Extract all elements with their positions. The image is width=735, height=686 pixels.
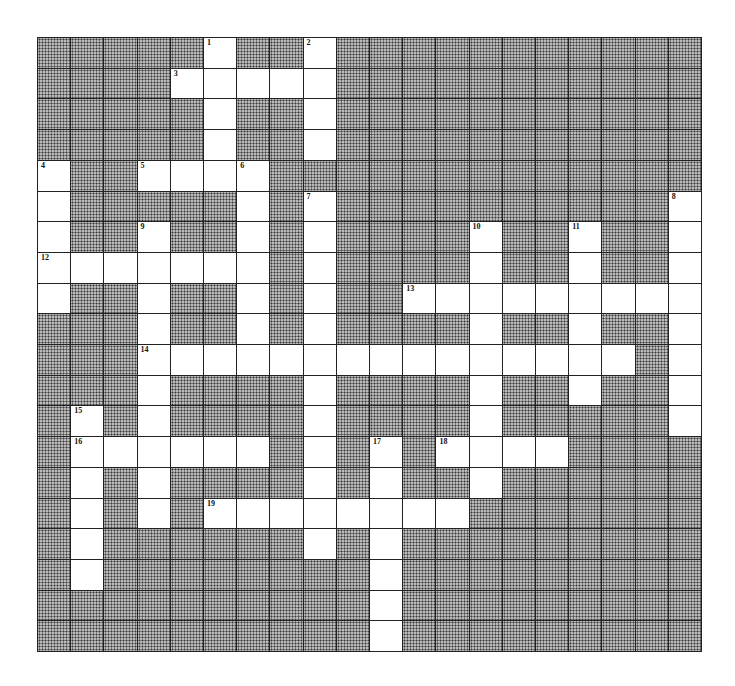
answer-cell[interactable] <box>204 253 236 283</box>
answer-cell[interactable] <box>171 345 203 375</box>
answer-cell[interactable] <box>237 345 269 375</box>
answer-cell[interactable] <box>304 284 336 314</box>
answer-cell[interactable]: 8 <box>669 192 701 222</box>
answer-cell[interactable] <box>304 345 336 375</box>
answer-cell[interactable] <box>436 499 468 529</box>
answer-cell[interactable] <box>237 192 269 222</box>
answer-cell[interactable] <box>237 437 269 467</box>
answer-cell[interactable] <box>304 499 336 529</box>
answer-cell[interactable] <box>304 99 336 129</box>
answer-cell[interactable] <box>38 222 70 252</box>
answer-cell[interactable] <box>270 69 302 99</box>
answer-cell[interactable] <box>71 468 103 498</box>
answer-cell[interactable] <box>237 314 269 344</box>
answer-cell[interactable]: 6 <box>237 161 269 191</box>
answer-cell[interactable] <box>536 284 568 314</box>
answer-cell[interactable] <box>237 499 269 529</box>
answer-cell[interactable] <box>503 345 535 375</box>
answer-cell[interactable] <box>470 284 502 314</box>
answer-cell[interactable] <box>237 284 269 314</box>
answer-cell[interactable] <box>204 345 236 375</box>
answer-cell[interactable] <box>536 437 568 467</box>
answer-cell[interactable] <box>138 499 170 529</box>
answer-cell[interactable] <box>270 499 302 529</box>
answer-cell[interactable] <box>669 376 701 406</box>
answer-cell[interactable] <box>171 253 203 283</box>
answer-cell[interactable]: 4 <box>38 161 70 191</box>
answer-cell[interactable] <box>669 345 701 375</box>
answer-cell[interactable] <box>237 69 269 99</box>
answer-cell[interactable] <box>337 499 369 529</box>
answer-cell[interactable] <box>270 345 302 375</box>
answer-cell[interactable] <box>636 284 668 314</box>
answer-cell[interactable]: 2 <box>304 38 336 68</box>
answer-cell[interactable] <box>337 345 369 375</box>
answer-cell[interactable] <box>304 130 336 160</box>
answer-cell[interactable]: 16 <box>71 437 103 467</box>
answer-cell[interactable] <box>138 253 170 283</box>
answer-cell[interactable]: 19 <box>204 499 236 529</box>
answer-cell[interactable] <box>569 253 601 283</box>
answer-cell[interactable] <box>71 560 103 590</box>
answer-cell[interactable]: 15 <box>71 406 103 436</box>
answer-cell[interactable] <box>470 345 502 375</box>
answer-cell[interactable]: 3 <box>171 69 203 99</box>
answer-cell[interactable] <box>204 161 236 191</box>
answer-cell[interactable]: 11 <box>569 222 601 252</box>
answer-cell[interactable]: 1 <box>204 38 236 68</box>
answer-cell[interactable] <box>536 345 568 375</box>
answer-cell[interactable] <box>370 529 402 559</box>
answer-cell[interactable]: 18 <box>436 437 468 467</box>
answer-cell[interactable] <box>204 69 236 99</box>
answer-cell[interactable]: 14 <box>138 345 170 375</box>
answer-cell[interactable] <box>470 406 502 436</box>
answer-cell[interactable] <box>171 161 203 191</box>
answer-cell[interactable]: 17 <box>370 437 402 467</box>
answer-cell[interactable] <box>304 529 336 559</box>
answer-cell[interactable] <box>436 284 468 314</box>
answer-cell[interactable]: 9 <box>138 222 170 252</box>
answer-cell[interactable] <box>569 284 601 314</box>
answer-cell[interactable] <box>304 376 336 406</box>
answer-cell[interactable] <box>503 437 535 467</box>
answer-cell[interactable] <box>71 253 103 283</box>
answer-cell[interactable] <box>470 314 502 344</box>
answer-cell[interactable] <box>669 253 701 283</box>
answer-cell[interactable] <box>38 192 70 222</box>
answer-cell[interactable] <box>370 345 402 375</box>
answer-cell[interactable] <box>304 406 336 436</box>
answer-cell[interactable] <box>403 499 435 529</box>
answer-cell[interactable] <box>602 284 634 314</box>
answer-cell[interactable] <box>503 284 535 314</box>
answer-cell[interactable] <box>204 437 236 467</box>
answer-cell[interactable] <box>669 284 701 314</box>
answer-cell[interactable]: 12 <box>38 253 70 283</box>
answer-cell[interactable] <box>204 99 236 129</box>
answer-cell[interactable] <box>403 345 435 375</box>
answer-cell[interactable] <box>569 314 601 344</box>
answer-cell[interactable] <box>370 499 402 529</box>
answer-cell[interactable] <box>370 591 402 621</box>
answer-cell[interactable] <box>71 529 103 559</box>
answer-cell[interactable] <box>237 222 269 252</box>
answer-cell[interactable] <box>138 376 170 406</box>
answer-cell[interactable] <box>304 253 336 283</box>
answer-cell[interactable] <box>669 314 701 344</box>
answer-cell[interactable] <box>470 468 502 498</box>
answer-cell[interactable] <box>138 468 170 498</box>
answer-cell[interactable] <box>569 345 601 375</box>
answer-cell[interactable] <box>138 314 170 344</box>
answer-cell[interactable] <box>138 406 170 436</box>
answer-cell[interactable] <box>104 253 136 283</box>
answer-cell[interactable] <box>370 621 402 651</box>
answer-cell[interactable] <box>436 345 468 375</box>
answer-cell[interactable] <box>304 69 336 99</box>
answer-cell[interactable] <box>470 437 502 467</box>
answer-cell[interactable] <box>669 222 701 252</box>
answer-cell[interactable] <box>370 560 402 590</box>
answer-cell[interactable]: 13 <box>403 284 435 314</box>
answer-cell[interactable] <box>237 253 269 283</box>
answer-cell[interactable] <box>602 345 634 375</box>
answer-cell[interactable] <box>470 376 502 406</box>
answer-cell[interactable] <box>370 468 402 498</box>
